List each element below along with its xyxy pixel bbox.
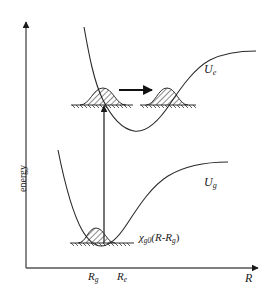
excited-state-curve-label-base: U — [204, 62, 213, 76]
excited-state-curve-label: Ue — [204, 63, 216, 77]
ground-state-wavepacket-fill — [78, 228, 115, 243]
ground-state-curve-label-base: U — [204, 175, 213, 189]
y-axis-label: energy — [18, 165, 28, 192]
x-tick-label-re-sub: e — [124, 275, 127, 284]
excited-state-potential-curve — [84, 27, 256, 131]
x-tick-label-re: Re — [117, 271, 127, 283]
x-tick-label-re-base: R — [117, 270, 124, 282]
ground-state-curve-label: Ug — [204, 176, 217, 190]
potential-energy-diagram: energy Ue Ug R Rg Re χg0(R-Rg) — [0, 0, 269, 297]
diagram-canvas — [0, 0, 269, 297]
wavefunction-close-paren: ) — [176, 231, 180, 243]
wavefunction-label: χg0(R-Rg) — [139, 232, 179, 244]
ground-state-wavepacket — [70, 228, 134, 246]
wavefunction-argument: (R-R — [151, 231, 172, 243]
x-axis-label: R — [245, 272, 252, 284]
ground-state-curve-label-sub: g — [213, 181, 217, 190]
excited-state-curve-label-sub: e — [213, 68, 217, 77]
x-tick-label-rg: Rg — [88, 271, 98, 283]
x-tick-label-rg-base: R — [88, 270, 95, 282]
x-tick-label-rg-sub: g — [95, 275, 99, 284]
